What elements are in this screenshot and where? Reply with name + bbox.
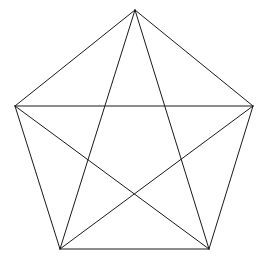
pentagon-pentagram-diagram xyxy=(0,0,267,265)
canvas-background xyxy=(0,0,267,265)
figure-container xyxy=(0,0,267,265)
